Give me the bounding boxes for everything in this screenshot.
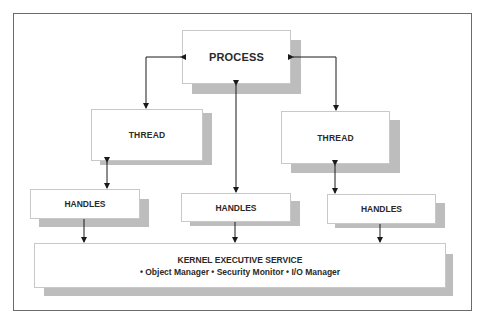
- handles-box-left: HANDLES: [30, 189, 140, 219]
- kernel-components: • Object Manager • Security Monitor • I/…: [140, 267, 340, 277]
- handles-label: HANDLES: [215, 203, 256, 213]
- kernel-executive-box: KERNEL EXECUTIVE SERVICE • Object Manage…: [34, 243, 446, 288]
- handles-box-right: HANDLES: [327, 194, 436, 224]
- thread-label: THREAD: [129, 130, 166, 140]
- kernel-title: KERNEL EXECUTIVE SERVICE: [178, 255, 303, 265]
- process-label: PROCESS: [209, 51, 264, 63]
- process-box: PROCESS: [182, 30, 291, 84]
- handles-label: HANDLES: [361, 204, 402, 214]
- thread-box-left: THREAD: [91, 109, 203, 161]
- handles-label: HANDLES: [64, 199, 105, 209]
- handles-box-middle: HANDLES: [181, 193, 291, 222]
- thread-box-right: THREAD: [281, 111, 390, 164]
- thread-label: THREAD: [317, 133, 354, 143]
